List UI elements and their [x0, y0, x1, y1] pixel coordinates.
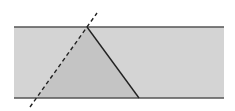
geometry-diagram [0, 0, 235, 111]
